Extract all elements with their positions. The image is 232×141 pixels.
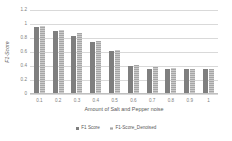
chart-legend: F1 ScoreF1-Score_Denoised: [0, 126, 232, 131]
bar: [96, 41, 101, 94]
x-axis-baseline: [30, 93, 218, 94]
bar: [153, 67, 158, 93]
legend-label: F1-Score_Denoised: [115, 126, 156, 131]
x-axis-tick-labels: 0.10.20.30.40.50.60.70.80.91: [30, 96, 218, 105]
bar: [190, 69, 195, 94]
x-axis-tick-label: 0.1: [30, 96, 49, 105]
bar-group: [143, 9, 162, 93]
y-axis-tick-label: 0.4: [21, 64, 30, 69]
y-axis-tick-label: 1.2: [21, 8, 30, 13]
bar: [128, 66, 133, 93]
gridline: [30, 94, 218, 95]
bar: [134, 65, 139, 93]
x-axis-tick-label: 0.9: [180, 96, 199, 105]
x-axis-tick-label: 0.3: [68, 96, 87, 105]
bar-group: [30, 9, 49, 93]
bar-group: [68, 9, 87, 93]
bar-group: [124, 9, 143, 93]
bar: [53, 31, 58, 93]
bar: [171, 68, 176, 93]
bar: [203, 69, 208, 93]
bar: [209, 69, 214, 94]
bar: [77, 33, 82, 93]
bar-group: [199, 9, 218, 93]
x-axis-tick-label: 0.5: [105, 96, 124, 105]
bar-group: [86, 9, 105, 93]
x-axis-title: Amount of Salt and Pepper noise: [30, 106, 218, 112]
y-axis-tick-label: 0.2: [21, 78, 30, 83]
bar: [115, 50, 120, 93]
x-axis-tick-label: 1: [199, 96, 218, 105]
bar: [40, 26, 45, 93]
y-axis-tick-label: 0.6: [21, 50, 30, 55]
legend-entry[interactable]: F1 Score: [76, 126, 100, 131]
plot-area: 00.20.40.60.811.2: [30, 10, 218, 94]
x-axis-tick-label: 0.7: [143, 96, 162, 105]
x-axis-tick-label: 0.4: [86, 96, 105, 105]
bar: [71, 36, 76, 93]
x-axis-tick-label: 0.6: [124, 96, 143, 105]
bar: [59, 30, 64, 93]
legend-swatch-icon: [110, 127, 114, 131]
legend-swatch-icon: [76, 127, 80, 131]
x-axis-tick-label: 0.8: [162, 96, 181, 105]
bar: [147, 69, 152, 94]
y-axis-tick-label: 0.8: [21, 36, 30, 41]
bar-group: [180, 9, 199, 93]
bar: [34, 27, 39, 93]
bar-group: [105, 9, 124, 93]
bar: [184, 69, 189, 93]
x-axis-tick-label: 0.2: [49, 96, 68, 105]
legend-entry[interactable]: F1-Score_Denoised: [110, 126, 156, 131]
y-axis-title: F1-Score: [4, 41, 10, 62]
bar: [109, 51, 114, 93]
bar: [90, 42, 95, 93]
legend-label: F1 Score: [81, 126, 100, 131]
bars-layer: [30, 9, 218, 93]
bar-group: [49, 9, 68, 93]
bar: [165, 69, 170, 94]
bar-group: [162, 9, 181, 93]
chart-figure: F1-Score 00.20.40.60.811.2 0.10.20.30.40…: [0, 0, 232, 141]
